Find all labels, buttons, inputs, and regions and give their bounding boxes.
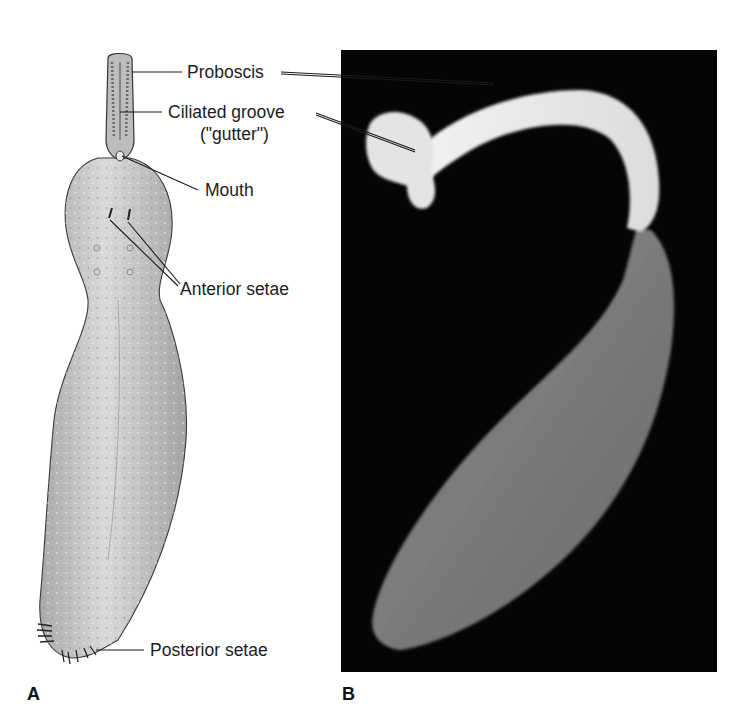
label-ciliated-groove: Ciliated groove bbox=[168, 102, 285, 122]
panel-a-illustration bbox=[0, 0, 746, 721]
label-mouth: Mouth bbox=[205, 180, 254, 200]
label-posterior-setae: Posterior setae bbox=[150, 640, 268, 660]
panel-letter-a: A bbox=[27, 684, 40, 705]
panel-letter-b: B bbox=[342, 684, 355, 705]
echiuran-worm-figure: Proboscis Ciliated groove ("gutter") Mou… bbox=[0, 0, 746, 721]
label-gutter: ("gutter") bbox=[200, 124, 269, 144]
label-anterior-setae: Anterior setae bbox=[180, 279, 289, 299]
label-proboscis: Proboscis bbox=[187, 62, 264, 82]
